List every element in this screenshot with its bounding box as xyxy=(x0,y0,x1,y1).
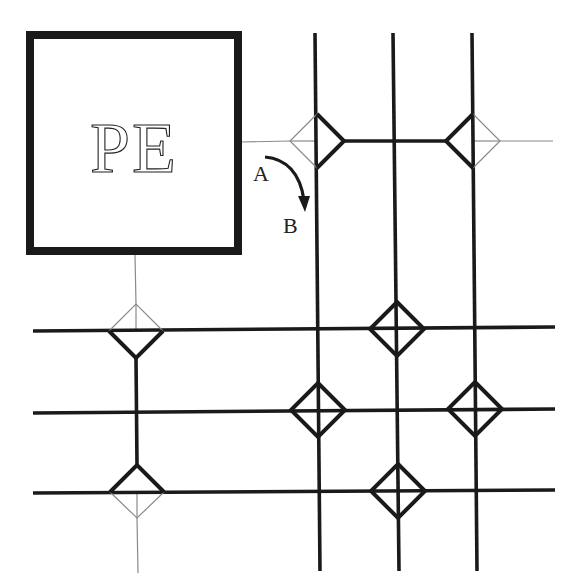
pe-right-thin-wire xyxy=(242,141,290,142)
label-a: A xyxy=(253,161,269,186)
label-b: B xyxy=(283,213,298,238)
interconnect-diagram: PE A B xyxy=(0,0,577,583)
arrowhead-icon xyxy=(298,196,310,212)
turn-arrow: A B xyxy=(253,157,310,238)
left-link-wire xyxy=(136,358,137,465)
pe-label: PE xyxy=(90,108,178,188)
pe-bottom-thin-wire xyxy=(135,255,136,304)
bottom-left-thin-wire-stub xyxy=(137,518,138,573)
curved-arrow-icon xyxy=(265,157,304,200)
pe-block: PE xyxy=(30,35,238,251)
